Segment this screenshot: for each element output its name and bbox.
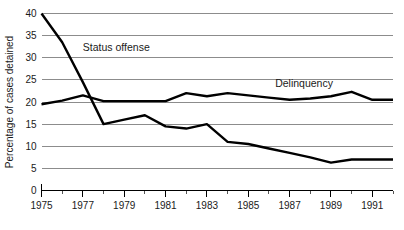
x-tick-label-1977: 1977	[72, 200, 95, 211]
y-tick-label-0: 0	[31, 185, 37, 196]
x-tick-label-1985: 1985	[237, 200, 260, 211]
y-axis-tick-labels: 0510152025303540	[25, 8, 37, 196]
x-tick-label-1989: 1989	[320, 200, 343, 211]
axis-lines	[42, 184, 394, 191]
x-axis-ticks: 197519771979198119831985198719891991	[30, 191, 393, 211]
x-tick-label-1983: 1983	[196, 200, 219, 211]
x-tick-label-1979: 1979	[113, 200, 136, 211]
chart-canvas: 0510152025303540 19751977197919811983198…	[0, 0, 404, 230]
x-tick-label-1987: 1987	[278, 200, 301, 211]
y-tick-label-15: 15	[25, 119, 37, 130]
series-label-delinquency: Delinquency	[275, 77, 334, 89]
x-tick-label-1975: 1975	[30, 200, 53, 211]
x-tick-label-1981: 1981	[154, 200, 177, 211]
series-label-status-offense: Status offense	[83, 41, 150, 53]
y-tick-label-10: 10	[25, 141, 37, 152]
y-tick-label-40: 40	[25, 8, 37, 19]
y-tick-label-35: 35	[25, 30, 37, 41]
line-chart: 0510152025303540 19751977197919811983198…	[0, 0, 404, 230]
y-tick-label-20: 20	[25, 97, 37, 108]
y-tick-label-30: 30	[25, 52, 37, 63]
y-axis-title: Percentage of cases detained	[4, 36, 15, 168]
gridlines-group	[42, 14, 394, 169]
y-tick-label-5: 5	[31, 163, 37, 174]
y-tick-label-25: 25	[25, 74, 37, 85]
x-tick-label-1991: 1991	[361, 200, 384, 211]
series-annotations: Status offenseDelinquency	[83, 41, 334, 89]
